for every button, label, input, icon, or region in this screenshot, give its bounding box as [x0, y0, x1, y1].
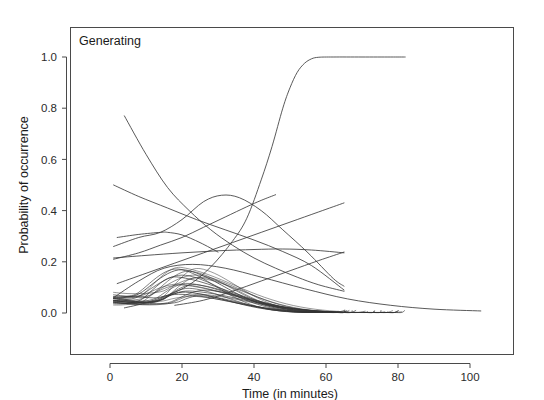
x-axis-title: Time (in minutes): [242, 387, 338, 400]
y-tick-label-4: 0.8: [41, 102, 57, 114]
x-tick-label-5: 100: [460, 371, 479, 383]
y-tick-label-3: 0.6: [41, 154, 57, 166]
figure-background: [0, 0, 544, 400]
y-tick-label-1: 0.2: [41, 256, 57, 268]
y-tick-label-2: 0.4: [41, 205, 58, 217]
y-tick-label-5: 1.0: [41, 51, 57, 63]
x-tick-label-0: 0: [107, 371, 113, 383]
y-tick-label-0: 0.0: [41, 307, 57, 319]
spaghetti-plot: Generating 0.0 0.2 0.4 0.6 0.8 1.0 Proba…: [0, 0, 544, 400]
y-axis-title: Probability of occurrence: [17, 116, 31, 254]
x-tick-label-3: 60: [320, 371, 333, 383]
panel-label: Generating: [79, 34, 141, 48]
x-tick-label-4: 80: [392, 371, 405, 383]
x-tick-label-2: 40: [248, 371, 261, 383]
chart-figure: Generating 0.0 0.2 0.4 0.6 0.8 1.0 Proba…: [0, 0, 544, 400]
x-tick-label-1: 20: [176, 371, 189, 383]
